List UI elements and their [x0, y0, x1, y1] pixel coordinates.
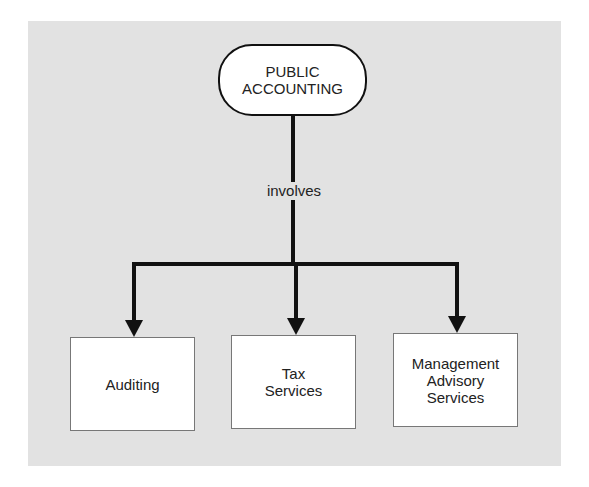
child-node-auditing: Auditing: [70, 337, 195, 431]
root-node-public-accounting: PUBLIC ACCOUNTING: [218, 44, 367, 116]
arrowhead-advisory: [448, 316, 466, 333]
child-2-line-2: Services: [265, 382, 323, 399]
relation-label: involves: [262, 182, 326, 200]
child-2-line-1: Tax: [282, 365, 305, 382]
arrowhead-tax: [287, 318, 305, 335]
child-3-line-3: Services: [427, 389, 485, 406]
child-3-line-2: Advisory: [427, 372, 485, 389]
child-node-management-advisory-services: Management Advisory Services: [393, 333, 518, 427]
child-3-line-1: Management: [412, 355, 500, 372]
child-node-tax-services: Tax Services: [231, 335, 356, 429]
arrowhead-auditing: [125, 320, 143, 337]
child-1-line-1: Auditing: [105, 376, 159, 393]
root-line-1: PUBLIC: [265, 63, 319, 80]
root-line-2: ACCOUNTING: [242, 80, 343, 97]
